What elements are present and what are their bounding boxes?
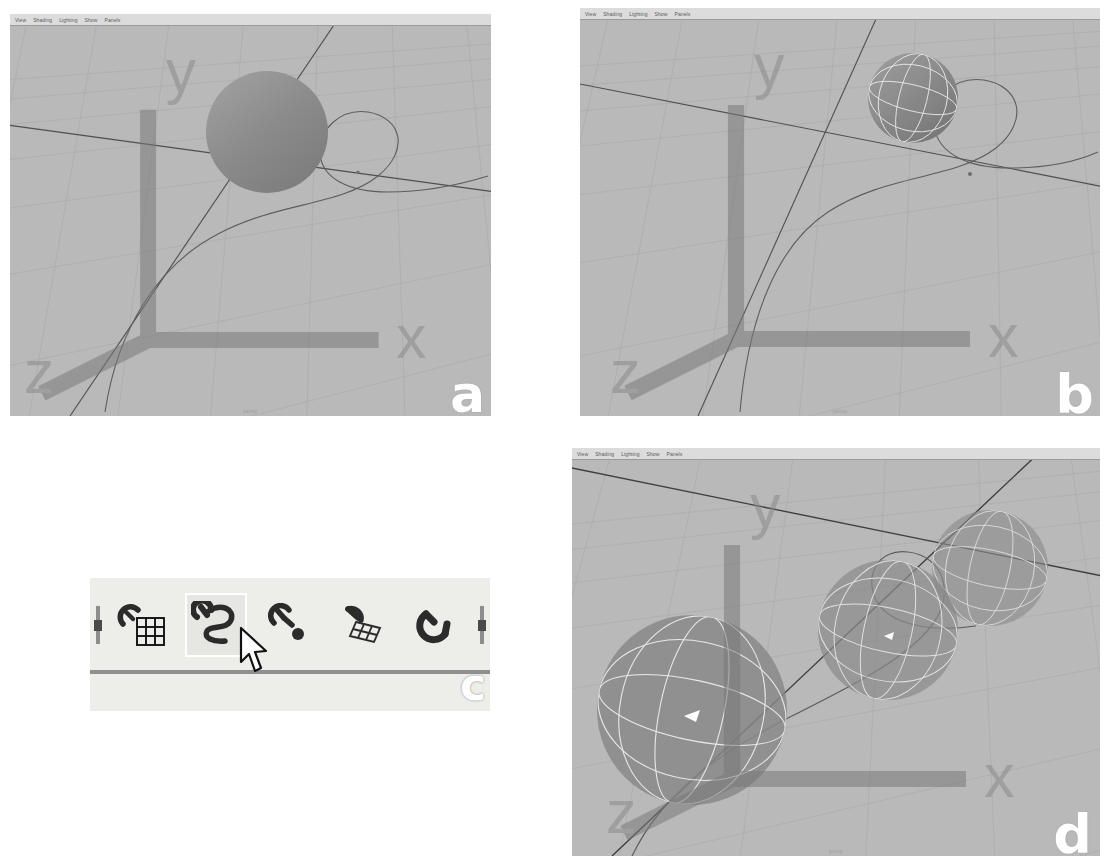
panel-label-b: b xyxy=(1055,368,1094,416)
toolbar-drag-handle-left[interactable] xyxy=(96,606,100,644)
snap-to-curve-icon xyxy=(191,601,241,649)
snap-to-view-plane-icon xyxy=(338,602,390,648)
menu-item-shading[interactable]: Shading xyxy=(595,451,614,457)
axis-gizmo-a: y x z xyxy=(14,26,491,411)
svg-text:y: y xyxy=(750,472,781,540)
menu-item-show[interactable]: Show xyxy=(647,451,660,457)
svg-text:z: z xyxy=(610,338,641,406)
snap-to-live-object-icon xyxy=(414,602,460,648)
svg-text:y: y xyxy=(166,37,197,105)
snap-toolbar-row[interactable] xyxy=(90,586,490,664)
axis-gizmo-d: y x z xyxy=(576,460,1100,851)
viewport-panel-d[interactable]: View Shading Lighting Show Panels xyxy=(572,448,1100,856)
viewport-canvas-a[interactable]: y x z persp xyxy=(10,26,491,416)
toolbar-lower-area xyxy=(90,674,490,711)
toolbar-drag-handle-right[interactable] xyxy=(480,606,484,644)
snap-button-group[interactable] xyxy=(106,586,474,664)
camera-label-a: persp xyxy=(10,408,491,414)
svg-text:y: y xyxy=(754,32,785,100)
menu-item-view[interactable]: View xyxy=(15,17,26,23)
svg-text:x: x xyxy=(988,302,1019,370)
svg-text:z: z xyxy=(24,338,54,406)
viewport-canvas-b[interactable]: y x z persp xyxy=(580,20,1100,416)
snap-to-live-object-button[interactable] xyxy=(406,593,468,657)
snap-point-dot xyxy=(292,628,304,640)
menu-item-view[interactable]: View xyxy=(577,451,588,457)
svg-text:x: x xyxy=(984,742,1015,810)
menu-item-shading[interactable]: Shading xyxy=(603,11,622,17)
svg-text:x: x xyxy=(396,303,426,371)
panel-label-a: a xyxy=(450,368,485,416)
menu-item-lighting[interactable]: Lighting xyxy=(59,17,77,23)
menu-item-lighting[interactable]: Lighting xyxy=(629,11,647,17)
panel-label-c: c xyxy=(460,663,486,707)
svg-text:z: z xyxy=(606,778,637,846)
mouse-cursor-arrow-icon xyxy=(238,626,272,674)
menu-item-panels[interactable]: Panels xyxy=(666,451,682,457)
camera-label-b: persp xyxy=(580,408,1100,414)
menu-item-panels[interactable]: Panels xyxy=(674,11,690,17)
viewport-panel-b[interactable]: View Shading Lighting Show Panels xyxy=(580,8,1100,416)
snap-to-grid-button[interactable] xyxy=(112,593,174,657)
menu-item-view[interactable]: View xyxy=(585,11,596,17)
viewport-canvas-d[interactable]: y x z persp xyxy=(572,460,1100,856)
viewport-panel-a[interactable]: View Shading Lighting Show Panels xyxy=(10,14,491,416)
camera-label-d: persp xyxy=(572,848,1100,854)
panel-label-d: d xyxy=(1053,808,1092,856)
viewport-menubar-d[interactable]: View Shading Lighting Show Panels xyxy=(572,448,1100,460)
snap-to-view-plane-button[interactable] xyxy=(333,593,395,657)
axis-gizmo-b: y x z xyxy=(584,20,1100,411)
menu-item-panels[interactable]: Panels xyxy=(104,17,120,23)
snap-to-point-icon xyxy=(267,603,313,647)
viewport-menubar-b[interactable]: View Shading Lighting Show Panels xyxy=(580,8,1100,20)
menu-item-show[interactable]: Show xyxy=(85,17,98,23)
snap-to-grid-icon xyxy=(116,602,170,648)
viewport-menubar-a[interactable]: View Shading Lighting Show Panels xyxy=(10,14,491,26)
menu-item-lighting[interactable]: Lighting xyxy=(621,451,639,457)
menu-item-show[interactable]: Show xyxy=(655,11,668,17)
snap-toolbar-panel-c[interactable]: c xyxy=(90,578,490,711)
menu-item-shading[interactable]: Shading xyxy=(33,17,52,23)
